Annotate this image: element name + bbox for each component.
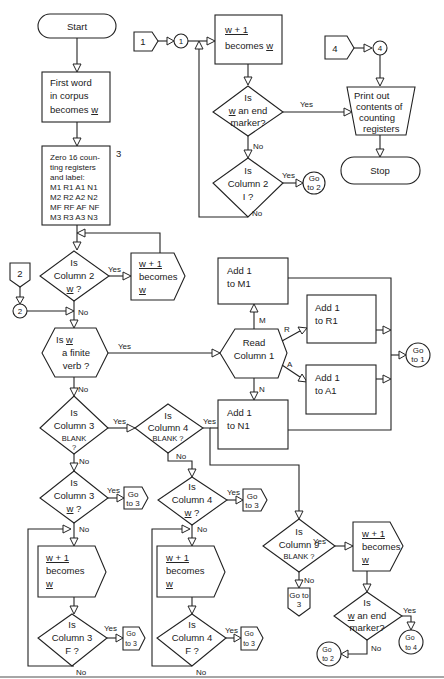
svg-text:Go: Go [413,346,424,355]
svg-text:to 3: to 3 [245,501,259,510]
svg-text:Print out: Print out [354,90,390,101]
svg-text:4: 4 [332,43,337,54]
svg-text:to A1: to A1 [315,385,337,396]
svg-text:No: No [371,644,382,653]
offpage-connector-2: 2 [10,263,30,287]
svg-text:Yes: Yes [108,265,121,274]
svg-text:Go: Go [126,630,135,637]
svg-text:Go to: Go to [289,591,309,600]
svg-text:w + 1: w + 1 [361,528,385,539]
svg-text:2: 2 [17,268,22,279]
svg-text:M3 R3 A3 N3: M3 R3 A3 N3 [50,213,98,222]
svg-text:Yes: Yes [203,417,216,426]
goto-2-connector-top[interactable]: Go to 2 [303,172,325,194]
svg-text:Column 4: Column 4 [148,422,189,433]
zero-registers-box: 3 Zero 16 coun- ting registers and label… [42,146,121,225]
goto-3-connector-d[interactable]: Go to 3 [241,627,263,650]
svg-text:Is: Is [295,526,303,537]
offpage-connector-4: 4 [325,36,354,59]
svg-text:w + 1: w + 1 [45,552,69,563]
svg-text:Add 1: Add 1 [315,372,340,383]
svg-text:Start: Start [67,21,87,32]
column4-blank-decision: Is Column 4 BLANK ? [135,404,203,453]
svg-text:to R1: to R1 [315,315,338,326]
svg-text:Is: Is [70,407,78,418]
svg-text:Is w: Is w [56,334,73,345]
svg-text:A: A [287,360,293,369]
svg-text:Go: Go [309,174,320,183]
column4-w-decision: Is Column 4 w ? [158,477,227,525]
svg-text:w ?: w ? [66,283,82,294]
svg-text:No: No [76,668,87,677]
svg-text:Column 1: Column 1 [234,350,275,361]
svg-text:to 3: to 3 [125,640,137,647]
column2-w-decision: Is Column 2 w ? [40,251,109,301]
svg-text:Yes: Yes [227,488,240,497]
loop-next-word-box: w + 1 becomes w [215,15,282,64]
svg-text:Is: Is [244,165,252,176]
svg-text:Is: Is [363,597,371,608]
svg-text:becomes w: becomes w [225,40,273,51]
svg-text:verb ?: verb ? [63,360,89,371]
column3-blank-decision: Is Column 3 BLANK ? [40,396,108,454]
svg-text:N: N [259,385,265,394]
svg-text:Yes: Yes [104,624,117,633]
svg-text:MF RF AF NF: MF RF AF NF [50,203,99,212]
svg-text:in corpus: in corpus [50,90,89,101]
svg-text:Go: Go [405,634,414,641]
svg-text:to N1: to N1 [227,420,250,431]
svg-text:F ?: F ? [185,645,199,656]
goto-2-connector-bottom[interactable]: Go to 2 [317,642,341,666]
svg-text:Yes: Yes [282,171,295,180]
svg-text:3: 3 [116,148,121,159]
svg-text:Go: Go [128,490,139,499]
svg-text:Is: Is [188,619,196,630]
svg-text:Yes: Yes [313,537,326,546]
svg-text:No: No [197,525,208,534]
goto-4-connector[interactable]: Go to 4 [399,630,423,654]
add-1-to-N1-box: Add 1 to N1 [218,400,288,449]
svg-text:No: No [196,668,207,677]
svg-text:Is: Is [70,257,78,268]
svg-text:R: R [284,325,290,334]
svg-text:w: w [361,554,369,565]
svg-text:No: No [79,525,90,534]
first-word-box: First word in corpus becomes w [42,72,110,122]
add-1-to-M1-box: Add 1 to M1 [218,258,288,304]
svg-text:Stop: Stop [370,165,390,176]
column3-next-word-box: w + 1 becomes w [38,546,106,597]
svg-text:Yes: Yes [118,342,131,351]
svg-text:w ?: w ? [66,503,82,514]
svg-text:Column 3: Column 3 [54,490,95,501]
svg-text:a finite: a finite [62,347,90,358]
svg-text:3: 3 [297,600,302,609]
svg-text:to 1: to 1 [411,355,425,364]
arrow-head-icon [73,138,81,146]
column3-F-decision: Is Column 3 F ? [38,614,107,666]
svg-text:F ?: F ? [65,645,79,656]
onpage-connector-2: 2 [13,304,27,318]
goto-3-connector-c[interactable]: Go to 3 [123,627,145,650]
svg-text:Add 1: Add 1 [227,265,252,276]
goto-3-connector-col9[interactable]: Go to 3 [288,588,310,616]
goto-3-connector-b[interactable]: Go to 3 [243,489,267,511]
svg-text:becomes: becomes [139,271,178,282]
offpage-connector-1: 1 [134,32,158,51]
svg-text:marker?: marker? [231,117,266,128]
goto-3-connector-a[interactable]: Go to 3 [124,487,148,509]
svg-text:Go: Go [322,646,331,653]
svg-text:Column 2: Column 2 [54,270,95,281]
svg-text:contents of: contents of [356,101,403,112]
goto-1-connector[interactable]: Go to 1 [406,343,430,367]
svg-text:Column 4: Column 4 [172,494,213,505]
svg-text:Column 2: Column 2 [228,178,269,189]
print-out-box: Print out contents of counting registers [347,87,415,135]
svg-text:No: No [176,452,187,461]
svg-text:becomes: becomes [46,565,85,576]
svg-text:Go: Go [247,492,258,501]
svg-text:Is: Is [70,477,78,488]
svg-text:Yes: Yes [403,606,416,615]
svg-text:w: w [165,578,173,589]
svg-text:4: 4 [378,44,383,53]
svg-text:2: 2 [18,307,23,316]
